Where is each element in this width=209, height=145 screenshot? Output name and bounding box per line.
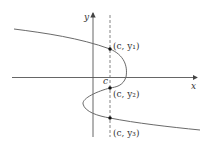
point-c-y3-dot xyxy=(108,116,111,119)
y-axis-label: y xyxy=(83,12,90,22)
c-label: c xyxy=(103,76,108,86)
point-c-y2-dot xyxy=(108,86,111,89)
point-c-y3-label: (c, y₃) xyxy=(113,128,139,138)
diagram-canvas: y x c (c, y₁) (c, y₂) (c, y₃) xyxy=(0,0,209,145)
x-axis-label: x xyxy=(191,81,196,91)
point-c-y2-label: (c, y₂) xyxy=(113,89,139,99)
point-c-y1-label: (c, y₁) xyxy=(113,41,139,51)
point-c-y1-dot xyxy=(108,47,111,50)
